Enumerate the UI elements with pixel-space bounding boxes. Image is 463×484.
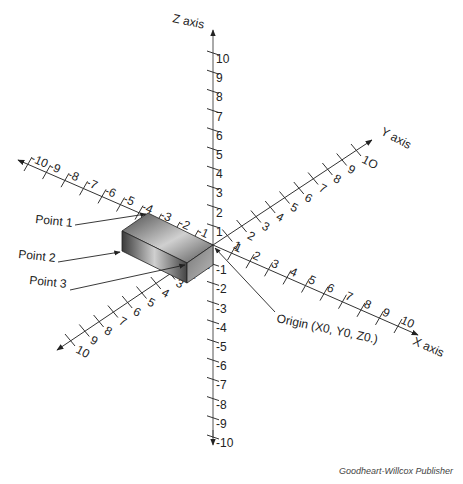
y-axis-tick	[308, 173, 318, 185]
y-axis-tick-label: 5	[145, 295, 158, 311]
x-axis-tick-label: 5	[306, 272, 318, 288]
x-axis-tick-label: 4	[288, 264, 300, 280]
x-axis-tick-label: 9	[380, 305, 392, 321]
y-axis-tick	[280, 192, 290, 204]
y-axis-tick	[79, 325, 89, 337]
y-axis-tick	[351, 144, 361, 156]
z-axis-tick-label: 9	[216, 71, 223, 85]
x-axis-tick-label: 10	[399, 313, 417, 331]
z-axis-tick-label: -5	[216, 340, 227, 354]
point-3-label: Point 3	[29, 273, 68, 291]
y-axis-tick	[151, 277, 161, 289]
z-axis-tick-label: -2	[216, 282, 227, 296]
origin-label: Origin (X0, Y0, Z0.)	[275, 311, 379, 346]
x-axis-tick-label: 3	[269, 256, 281, 272]
z-axis-tick-label: 1	[216, 225, 223, 239]
y-axis-tick-label: 6	[302, 190, 315, 206]
y-axis-tick-label: 4	[274, 209, 287, 225]
z-axis-tick-label: 5	[216, 148, 223, 162]
y-axis-tick	[251, 211, 261, 223]
y-axis-tick	[265, 201, 275, 213]
x-axis-title: X axis	[411, 334, 447, 360]
y-axis-tick-label: 3	[259, 219, 272, 235]
coordinate-system-diagram: 12345678910-1-2-3-4-5-6-7-8-9-10 1234567…	[0, 0, 463, 484]
z-axis-tick-label: 7	[216, 110, 223, 124]
publisher-credit: Goodheart-Willcox Publisher	[339, 466, 453, 476]
y-axis-tick	[337, 154, 347, 166]
y-axis-tick-label: 2	[245, 228, 258, 244]
y-axis-tick	[94, 315, 104, 327]
y-axis-tick-label: 1O	[360, 152, 381, 172]
y-axis-tick	[108, 306, 118, 318]
y-axis-tick-label: 6	[131, 304, 144, 320]
rectangular-block	[122, 213, 213, 283]
z-axis-tick-label: 4	[216, 167, 223, 181]
z-axis-tick-label: -8	[216, 398, 227, 412]
y-axis-tick-label: 7	[116, 314, 129, 330]
x-axis-tick-label: 2	[251, 248, 263, 264]
y-axis-tick	[122, 296, 132, 308]
z-axis-tick-label: 8	[216, 90, 223, 104]
z-axis-tick-label: 2	[216, 206, 223, 220]
y-axis-title: Y axis	[379, 124, 414, 152]
y-axis-tick-label: 9	[88, 333, 101, 349]
y-axis-tick-label: 7	[317, 181, 330, 197]
x-axis-tick-label: 6	[325, 281, 337, 297]
z-axis-tick-label: 3	[216, 186, 223, 200]
z-axis-tick-label: -4	[216, 321, 227, 335]
y-axis-tick-label: 5	[288, 200, 301, 216]
y-axis-tick	[237, 220, 247, 232]
z-axis-tick-label: -1	[216, 263, 227, 277]
z-axis-tick-label: 10	[216, 52, 230, 66]
point-2-label: Point 2	[18, 247, 57, 265]
z-axis-tick-label: -6	[216, 359, 227, 373]
z-axis-tick-label: -9	[216, 417, 227, 431]
y-axis-tick	[294, 182, 304, 194]
x-axis-tick-label: 8	[362, 297, 374, 313]
z-axis-tick-label: -7	[216, 378, 227, 392]
z-axis-tick-label: -3	[216, 302, 227, 316]
y-axis-tick-label: 8	[331, 171, 344, 187]
z-axis-tick-label: 6	[216, 129, 223, 143]
y-axis-tick-label: 4	[159, 285, 172, 301]
y-axis-tick	[322, 163, 332, 175]
y-axis-tick-label: 9	[345, 162, 358, 178]
z-axis-tick-label: -10	[216, 436, 234, 450]
z-axis-title: Z axis	[171, 11, 205, 31]
y-axis-tick-label: 8	[102, 323, 115, 339]
x-axis-tick-label: 7	[343, 289, 355, 305]
y-axis-tick	[137, 287, 147, 299]
point-1-label: Point 1	[35, 212, 74, 230]
x-axis-tick-label: -10	[29, 151, 51, 171]
y-axis	[57, 140, 372, 350]
y-axis-tick	[222, 230, 232, 242]
